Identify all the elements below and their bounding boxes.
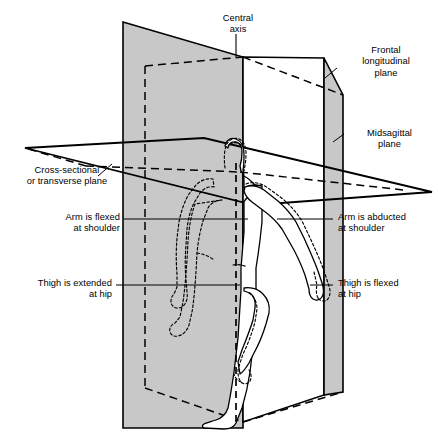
anatomical-planes-figure: Central axis Frontal longitudinal plane … [0,0,438,447]
central-axis-label: Central axis [196,13,280,36]
transverse-hidden-edge-corner [25,148,86,166]
thigh-flexed-label: Thigh is flexed at hip [338,278,434,301]
arm-flexed-label: Arm is flexed at shoulder [22,212,120,235]
arm-abducted-label: Arm is abducted at shoulder [338,212,438,235]
midsagittal-plane-label: Midsagittal plane [347,128,432,151]
frontal-longitudinal-plane [123,22,243,428]
frontal-plane-label: Frontal longitudinal plane [340,45,432,79]
transverse-plane-label: Cross-sectional or transverse plane [12,165,122,188]
frontal-plane-surface [123,22,243,428]
thigh-extended-label: Thigh is extended at hip [12,278,112,301]
